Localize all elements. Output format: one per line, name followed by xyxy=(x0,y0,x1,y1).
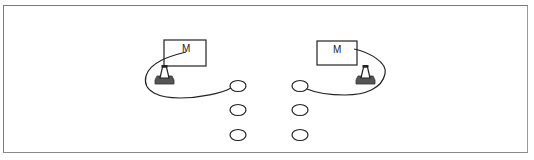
right-circle-column xyxy=(292,81,308,141)
circle-marker xyxy=(292,130,308,141)
diagram-canvas: M M xyxy=(0,0,534,160)
left-station: M xyxy=(145,40,231,98)
right-cable xyxy=(307,49,385,95)
left-monitor-label: M xyxy=(182,43,190,54)
right-monitor-label: M xyxy=(333,44,341,55)
left-cone-icon xyxy=(155,65,174,84)
circle-marker xyxy=(230,130,246,141)
left-circle-column xyxy=(230,81,246,141)
circle-marker xyxy=(292,81,308,92)
right-cone-icon xyxy=(356,65,375,84)
circle-marker xyxy=(230,81,246,92)
circle-marker xyxy=(230,105,246,116)
circle-marker xyxy=(292,105,308,116)
right-station: M xyxy=(307,41,385,95)
left-cable xyxy=(145,52,231,98)
